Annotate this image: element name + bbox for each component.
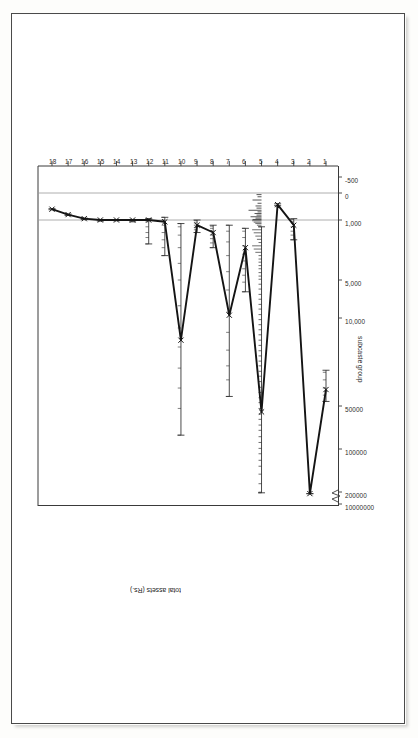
value-axis-tick-label: 50000 xyxy=(345,406,363,413)
category-axis-tick-label: 18 xyxy=(49,158,56,165)
category-axis-tick-label: 16 xyxy=(81,158,88,165)
category-axis-tick-label: 10 xyxy=(178,158,185,165)
value-axis-tick-label: 10000000 xyxy=(345,504,374,511)
value-axis-tick-label: 1,000 xyxy=(345,220,362,227)
category-axis-tick-label: 9 xyxy=(194,158,198,165)
category-axis-tick-label: 2 xyxy=(307,158,311,165)
category-axis-tick-label: 1 xyxy=(323,158,327,165)
value-axis-tick-label: 0 xyxy=(345,193,349,200)
scanned-page: 100000002000001000005000010,0005,0001,00… xyxy=(0,0,418,738)
value-axis-tick-label: 5,000 xyxy=(345,280,362,287)
value-axis-title: total assets (Rs.) xyxy=(130,587,181,594)
category-axis-tick-label: 12 xyxy=(146,158,153,165)
value-axis-tick-label: 100000 xyxy=(345,449,367,456)
page-frame: 100000002000001000005000010,0005,0001,00… xyxy=(11,13,405,724)
figure-rotation-wrapper: 100000002000001000005000010,0005,0001,00… xyxy=(30,154,370,554)
category-axis-title: subcaste group xyxy=(357,336,364,382)
category-axis-tick-label: 7 xyxy=(226,158,230,165)
value-axis-tick-label: 10,000 xyxy=(345,318,365,325)
plot-stage: 100000002000001000005000010,0005,0001,00… xyxy=(30,154,370,554)
category-axis-tick-label: 4 xyxy=(275,158,279,165)
category-axis-tick-label: 8 xyxy=(210,158,214,165)
category-axis-tick-label: 15 xyxy=(97,158,104,165)
value-axis-tick-label: -500 xyxy=(345,177,358,184)
plot-drawing-area xyxy=(30,154,370,554)
series-line xyxy=(52,205,326,494)
category-axis-tick-label: 5 xyxy=(259,158,263,165)
value-axis-tick-label: 200000 xyxy=(345,492,367,499)
category-axis-tick-label: 13 xyxy=(130,158,137,165)
category-axis-tick-label: 11 xyxy=(162,158,169,165)
category-axis-tick-label: 14 xyxy=(113,158,120,165)
category-axis-tick-label: 17 xyxy=(65,158,72,165)
category-axis-tick-label: 6 xyxy=(242,158,246,165)
category-axis-tick-label: 3 xyxy=(291,158,295,165)
